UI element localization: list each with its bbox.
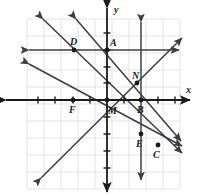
plotted-point-e [139, 132, 144, 137]
point-label-a: A [110, 38, 117, 48]
coordinate-plane-svg [0, 0, 203, 196]
plotted-point-c [156, 143, 161, 148]
point-label-n: N [132, 71, 139, 81]
point-label-e: E [136, 139, 143, 149]
point-label-m: M [108, 106, 117, 116]
plotted-point-b [139, 98, 144, 103]
point-label-f: F [69, 105, 76, 115]
plotted-point-d [72, 48, 77, 53]
point-label-c: C [153, 150, 160, 160]
x-axis-label: x [186, 85, 191, 95]
graph-figure: x y ABCDEFMN [0, 0, 203, 196]
point-label-d: D [70, 37, 77, 47]
plotted-point-n [135, 81, 140, 86]
line-down-right-through-A-M-E [76, 19, 181, 141]
y-axis-label: y [114, 5, 118, 15]
plotted-point-f [71, 98, 76, 103]
plotted-point-a [105, 48, 110, 53]
plotted-point-m [105, 98, 110, 103]
plotted-points [71, 48, 161, 148]
point-label-b: B [137, 105, 144, 115]
